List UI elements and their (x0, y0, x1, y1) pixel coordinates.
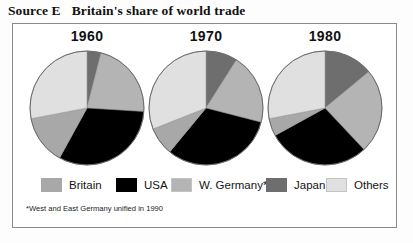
legend-item-usa: USA (116, 176, 168, 194)
chart-year-label-1980: 1980 (265, 28, 385, 44)
legend-label-w-germany: W. Germany* (199, 179, 267, 191)
legend-item-japan: Japan (266, 176, 325, 194)
pie-slice (268, 51, 325, 119)
legend-swatch-japan (266, 178, 287, 192)
page-title: Source EBritain's share of world trade (8, 3, 245, 19)
figure-source-e: Source EBritain's share of world trade 1… (0, 0, 413, 243)
chart-footnote: *West and East Germany unified in 1990 (26, 204, 163, 213)
legend-item-others: Others (326, 176, 389, 194)
legend-item-britain: Britain (41, 176, 102, 194)
chart-legend: Britain USA W. Germany* Japan Others (13, 176, 398, 196)
source-label: Source E (8, 3, 61, 18)
pie-chart-1970 (146, 48, 266, 168)
chart-panel: 1960 1970 1980 Britain USA W. Germany* J… (12, 23, 397, 228)
legend-label-others: Others (354, 179, 389, 191)
chart-year-label-1960: 1960 (27, 28, 147, 44)
chart-year-label-1970: 1970 (146, 28, 266, 44)
legend-swatch-usa (116, 178, 137, 192)
pie-chart-1960 (27, 48, 147, 168)
legend-swatch-britain (41, 178, 62, 192)
legend-label-britain: Britain (69, 179, 102, 191)
pie-chart-1980 (265, 48, 385, 168)
legend-label-japan: Japan (294, 179, 325, 191)
legend-swatch-others (326, 178, 347, 192)
legend-item-w-germany: W. Germany* (171, 176, 267, 194)
title-text: Britain's share of world trade (72, 3, 246, 18)
legend-label-usa: USA (144, 179, 168, 191)
pie-slice (30, 51, 87, 119)
legend-swatch-w-germany (171, 178, 192, 192)
